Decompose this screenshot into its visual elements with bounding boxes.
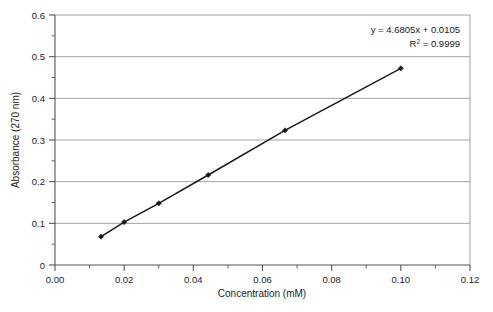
y-tick-label: 0.3 — [32, 135, 45, 146]
x-tick-label: 0.04 — [184, 274, 203, 285]
x-tick-label: 0.12 — [461, 274, 480, 285]
x-tick-label: 0.06 — [253, 274, 272, 285]
x-axis-title: Concentration (mM) — [218, 288, 306, 299]
absorbance-standard-curve-chart: 0.000.020.040.060.080.100.12 00.10.20.30… — [0, 0, 493, 312]
x-tick-label: 0.02 — [115, 274, 134, 285]
x-tick-label: 0.08 — [322, 274, 341, 285]
y-tick-label: 0.5 — [32, 51, 45, 62]
x-tick-label: 0.00 — [46, 274, 65, 285]
y-tick-label: 0.4 — [32, 93, 45, 104]
y-tick-label: 0 — [40, 260, 45, 271]
y-tick-label: 0.2 — [32, 176, 45, 187]
y-axis-title: Absorbance (270 nm) — [10, 92, 21, 188]
x-tick-label: 0.10 — [392, 274, 411, 285]
chart-container: 0.000.020.040.060.080.100.12 00.10.20.30… — [0, 0, 493, 312]
r-squared-value: = 0.9999 — [420, 38, 460, 49]
y-tick-label: 0.6 — [32, 10, 45, 21]
y-tick-label: 0.1 — [32, 218, 45, 229]
regression-equation-label: y = 4.6805x + 0.0105 — [371, 24, 460, 35]
